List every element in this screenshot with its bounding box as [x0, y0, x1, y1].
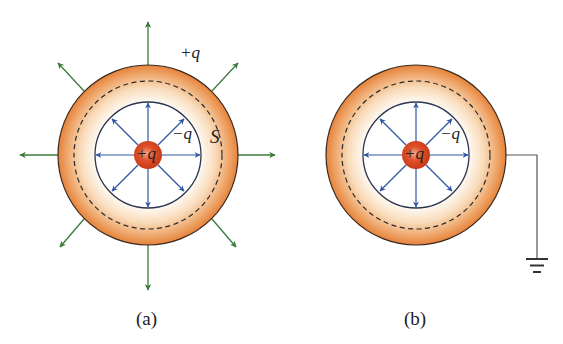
figure-b	[326, 65, 548, 272]
point-charge-label: +q	[404, 144, 424, 164]
diagram-canvas	[0, 0, 563, 344]
inner-surface-charge-label: −q	[172, 124, 192, 144]
caption-a: (a)	[136, 308, 157, 330]
ground-icon	[526, 259, 548, 272]
outer-surface-charge-label: +q	[180, 43, 200, 63]
inner-surface-charge-label: −q	[440, 124, 460, 144]
caption-b: (b)	[404, 308, 426, 330]
point-charge-label: +q	[136, 144, 156, 164]
gaussian-surface-label: S	[210, 126, 220, 148]
ground-wire	[506, 155, 537, 259]
